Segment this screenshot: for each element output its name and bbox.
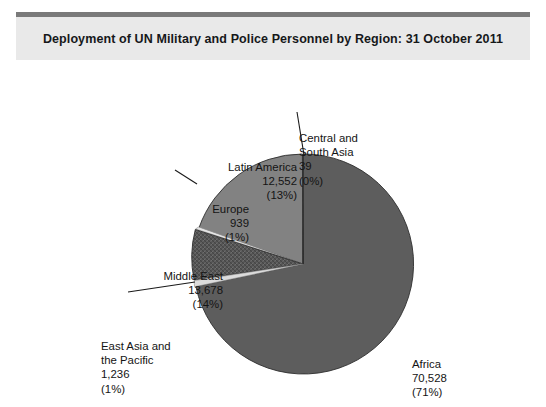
label-line: South Asia bbox=[299, 145, 358, 159]
label-line: Europe bbox=[148, 202, 249, 216]
label-line: Middle East bbox=[110, 269, 223, 283]
pie-label-central-south-asia: Central and South Asia 39 (0%) bbox=[299, 131, 358, 188]
label-line: Latin America bbox=[186, 160, 297, 174]
label-value: 70,528 bbox=[412, 371, 447, 385]
pie-chart-graphic bbox=[0, 60, 546, 407]
pie-label-east-asia-pacific: East Asia and the Pacific 1,236 (1%) bbox=[101, 339, 171, 396]
label-percent: (1%) bbox=[101, 382, 171, 396]
title-box: Deployment of UN Military and Police Per… bbox=[16, 17, 530, 60]
chart-title-banner: Deployment of UN Military and Police Per… bbox=[16, 12, 530, 60]
pie-chart: Central and South Asia 39 (0%) Latin Ame… bbox=[0, 60, 546, 407]
label-value: 13,678 bbox=[110, 283, 223, 297]
pie-label-europe: Europe 939 (1%) bbox=[148, 202, 249, 245]
pie-label-africa: Africa 70,528 (71%) bbox=[412, 357, 447, 400]
label-value: 1,236 bbox=[101, 367, 171, 381]
label-percent: (1%) bbox=[148, 230, 249, 244]
label-value: 39 bbox=[299, 159, 358, 173]
label-percent: (14%) bbox=[110, 297, 223, 311]
pie-label-middle-east: Middle East 13,678 (14%) bbox=[110, 269, 223, 312]
pie-label-latin-america: Latin America 12,552 (13%) bbox=[186, 160, 297, 203]
label-line: Africa bbox=[412, 357, 447, 371]
label-line: East Asia and bbox=[101, 339, 171, 353]
page-title: Deployment of UN Military and Police Per… bbox=[43, 32, 503, 46]
label-percent: (71%) bbox=[412, 385, 447, 399]
label-value: 12,552 bbox=[186, 174, 297, 188]
label-value: 939 bbox=[148, 216, 249, 230]
label-line: Central and bbox=[299, 131, 358, 145]
label-percent: (13%) bbox=[186, 188, 297, 202]
label-percent: (0%) bbox=[299, 174, 358, 188]
label-line: the Pacific bbox=[101, 353, 171, 367]
